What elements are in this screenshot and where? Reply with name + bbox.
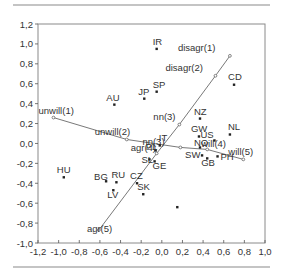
vector-marker — [179, 146, 182, 149]
y-tick-label: -0,2 — [17, 158, 33, 169]
y-tick-label: 0,0 — [20, 138, 33, 149]
x-tick-label: 0,6 — [217, 246, 230, 257]
x-tick-label: 0,0 — [155, 246, 168, 257]
y-tick-label: 1,2 — [20, 19, 33, 30]
data-point — [159, 144, 161, 146]
point-label: IR — [153, 36, 163, 47]
point-label: NZ — [194, 106, 207, 117]
data-point — [229, 133, 231, 135]
vector-lines: disagr(1)disagr(2)nn(3)agr(4)agr(5)unwil… — [38, 42, 253, 234]
x-tick-label: -1,0 — [50, 246, 66, 257]
point-label: PH — [221, 151, 234, 162]
y-tick-label: 0,6 — [20, 78, 33, 89]
data-point — [113, 103, 115, 105]
vector-marker — [214, 74, 217, 77]
data-point — [176, 206, 178, 208]
point-label: BG — [94, 171, 108, 182]
data-point — [201, 154, 203, 156]
point-label: JP — [138, 86, 149, 97]
y-tick-label: 0,8 — [20, 58, 33, 69]
scatter-points: IRSPJPAUCDNZGWNLUSNOSWGBPHITPLSLGEHUBGRU… — [57, 36, 242, 208]
point-label: AU — [106, 92, 119, 103]
data-point — [155, 90, 157, 92]
x-tick-label: -0,8 — [71, 246, 87, 257]
point-label: SW — [185, 149, 200, 160]
y-axis: 1,21,00,80,60,40,20,0-0,2-0,4-0,6-0,8-1,… — [17, 19, 38, 249]
point-label: NL — [228, 121, 240, 132]
x-tick-label: -0,6 — [92, 246, 108, 257]
data-point — [63, 176, 65, 178]
point-label: GE — [153, 160, 167, 171]
data-point — [233, 84, 235, 86]
x-tick-label: -1,2 — [30, 246, 46, 257]
point-label: RU — [111, 169, 125, 180]
x-tick-label: 0,4 — [196, 246, 209, 257]
data-point — [216, 155, 218, 157]
y-tick-label: -0,8 — [17, 218, 33, 229]
x-tick-label: 0,8 — [238, 246, 251, 257]
y-tick-label: -0,4 — [17, 178, 33, 189]
point-label: HU — [57, 164, 71, 175]
point-label: SL — [141, 154, 153, 165]
vector-marker — [125, 138, 128, 141]
point-label: GB — [201, 157, 215, 168]
y-tick-label: 0,4 — [20, 98, 33, 109]
data-point — [115, 181, 117, 183]
vector-label: disagr(1) — [178, 42, 216, 53]
vector-label: unwill(1) — [38, 105, 73, 116]
point-label: NO — [194, 137, 208, 148]
data-point — [155, 48, 157, 50]
data-point — [143, 97, 145, 99]
y-tick-label: 0,2 — [20, 118, 33, 129]
data-point — [142, 193, 144, 195]
point-label: CD — [228, 71, 242, 82]
y-tick-label: -0,6 — [17, 198, 33, 209]
point-label: SK — [137, 181, 150, 192]
point-label: CZ — [130, 170, 143, 181]
point-label: LV — [107, 189, 119, 200]
vector-marker — [229, 54, 232, 57]
vector-marker — [242, 158, 245, 161]
vector-label: agr(5) — [87, 223, 112, 234]
point-label: IT — [159, 132, 168, 143]
x-tick-label: 1,0 — [258, 246, 271, 257]
vector-label: nn(3) — [153, 111, 175, 122]
x-tick-label: 0,2 — [176, 246, 189, 257]
data-point — [199, 117, 201, 119]
point-label: PL — [146, 141, 158, 152]
y-tick-label: 1,0 — [20, 38, 33, 49]
chart-canvas: 1,21,00,80,60,40,20,0-0,2-0,4-0,6-0,8-1,… — [0, 0, 282, 271]
vector-marker — [52, 116, 55, 119]
vector-label: disagr(2) — [165, 62, 203, 73]
x-tick-label: -0,2 — [133, 246, 149, 257]
point-label: SP — [153, 79, 166, 90]
vector-label: unwill(2) — [95, 126, 130, 137]
vector-marker — [178, 123, 181, 126]
x-tick-label: -0,4 — [112, 246, 128, 257]
